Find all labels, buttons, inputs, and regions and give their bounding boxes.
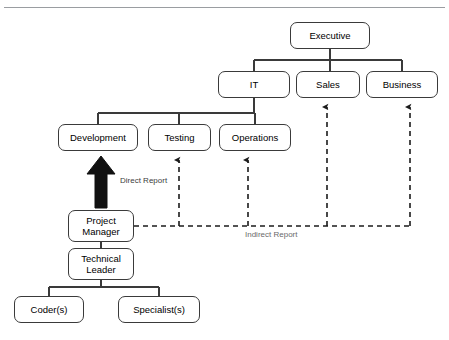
node-technical-leader[interactable]: Technical Leader xyxy=(68,248,134,280)
node-label-business: Business xyxy=(380,79,425,90)
node-coders[interactable]: Coder(s) xyxy=(14,296,84,323)
node-label-sales: Sales xyxy=(313,79,343,90)
edge-label-indirect-report: Indirect Report xyxy=(245,230,297,239)
connector-lines xyxy=(0,8,449,340)
node-testing[interactable]: Testing xyxy=(148,124,211,151)
node-business[interactable]: Business xyxy=(366,71,438,98)
node-specialists[interactable]: Specialist(s) xyxy=(118,296,200,323)
edge-label-direct-report: Direct Report xyxy=(120,176,167,185)
node-label-development: Development xyxy=(67,132,129,143)
org-chart-canvas: Executive IT Sales Business Development … xyxy=(0,8,449,340)
node-label-specialists: Specialist(s) xyxy=(130,304,188,315)
indirect-report-text: Indirect Report xyxy=(245,230,297,239)
node-label-operations: Operations xyxy=(229,132,281,143)
clipped-header-strip xyxy=(0,0,449,7)
node-label-technical-leader: Technical Leader xyxy=(78,253,124,275)
node-operations[interactable]: Operations xyxy=(219,124,291,151)
diagram-page: Executive IT Sales Business Development … xyxy=(0,0,449,340)
node-development[interactable]: Development xyxy=(58,124,138,151)
node-label-it: IT xyxy=(247,79,261,90)
node-label-testing: Testing xyxy=(161,132,197,143)
direct-report-block-arrow xyxy=(87,156,115,208)
direct-report-text: Direct Report xyxy=(120,176,167,185)
node-it[interactable]: IT xyxy=(218,71,290,98)
node-label-executive: Executive xyxy=(306,30,353,41)
node-label-coders: Coder(s) xyxy=(28,304,71,315)
node-executive[interactable]: Executive xyxy=(290,22,370,49)
node-project-manager[interactable]: Project Manager xyxy=(68,210,134,242)
node-label-project-manager: Project Manager xyxy=(79,215,123,237)
node-sales[interactable]: Sales xyxy=(296,71,360,98)
